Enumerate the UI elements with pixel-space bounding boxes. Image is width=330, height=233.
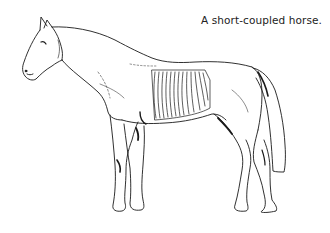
hind-legs	[214, 114, 277, 213]
ear-icon	[40, 17, 52, 30]
rib-cage	[152, 70, 210, 120]
eye	[41, 42, 46, 44]
horse-illustration	[0, 0, 330, 233]
neck-and-back-outline	[52, 27, 252, 67]
front-legs	[110, 115, 144, 211]
head-outline	[23, 30, 62, 80]
